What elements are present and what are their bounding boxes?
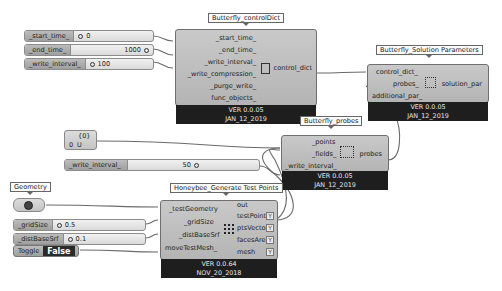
- slider-grip-icon[interactable]: [68, 237, 73, 242]
- slider-value: 1000: [124, 46, 141, 54]
- date-label: JAN_12_2019: [176, 115, 316, 124]
- output-port[interactable]: probes: [360, 150, 382, 158]
- input-port[interactable]: _purge_write_: [210, 82, 256, 90]
- graft-icon: Y: [266, 236, 274, 244]
- input-port[interactable]: control_dict_: [376, 68, 418, 76]
- component-footer: VER 0.0.05 JAN_12_2019: [282, 171, 388, 190]
- input-port[interactable]: _write_interval_: [204, 58, 256, 66]
- output-port[interactable]: solution_par: [442, 80, 482, 88]
- slider-value: 0.1: [76, 235, 87, 243]
- component-footer: VER 0.0.64 NOV_20_2018: [161, 259, 277, 278]
- component-footer: VER 0.0.05 JAN_12_2019: [176, 105, 316, 124]
- input-port[interactable]: _points: [312, 138, 336, 146]
- date-label: NOV_20_2018: [161, 269, 277, 278]
- data-panel[interactable]: {0} 0 U: [64, 130, 97, 150]
- slider-write-interval-probes[interactable]: _write_interval_ 50: [64, 159, 260, 171]
- component-title-tag: Honeybee_Generate Test Points: [170, 183, 283, 193]
- input-port[interactable]: moveTestMesh_: [165, 244, 217, 252]
- input-port[interactable]: additional_par_: [372, 92, 422, 100]
- slider-value: 0.5: [65, 221, 76, 229]
- panel-row-value: U: [77, 141, 82, 149]
- component-title-tag: Butterfly_probes: [300, 116, 362, 126]
- slider-label: _end_time_: [25, 45, 71, 55]
- slider-grid-size[interactable]: _gridSize 0.5: [13, 219, 146, 231]
- output-port[interactable]: mesh: [237, 248, 255, 256]
- panel-header: {0}: [78, 132, 90, 140]
- component-icon: [340, 146, 354, 158]
- input-port[interactable]: func_objects_: [211, 94, 256, 102]
- boolean-toggle[interactable]: Toggle False: [13, 245, 79, 257]
- version-label: VER 0.0.64: [161, 260, 277, 269]
- slider-end-time[interactable]: _end_time_ 1000: [24, 44, 154, 56]
- output-port[interactable]: control_dict: [274, 64, 312, 72]
- slider-write-interval[interactable]: _write_interval_ 100: [24, 58, 154, 70]
- date-label: JAN_12_2019: [282, 181, 388, 190]
- input-port[interactable]: _end_time_: [219, 46, 256, 54]
- panel-row-index: 0: [69, 141, 73, 149]
- input-port[interactable]: probes_: [393, 80, 419, 88]
- component-footer: VER 0.0.05 JAN_12_2019: [368, 102, 488, 121]
- output-port[interactable]: facesArea: [237, 236, 270, 244]
- slider-grip-icon[interactable]: [57, 223, 62, 228]
- slider-label: _gridSize: [14, 220, 53, 230]
- input-port[interactable]: _fields_: [312, 150, 336, 158]
- slider-value: 50: [183, 161, 191, 169]
- output-port[interactable]: testPoints: [237, 212, 269, 220]
- input-port[interactable]: _start_time_: [216, 34, 256, 42]
- slider-dist-base-srf[interactable]: _distBaseSrf 0.1: [13, 233, 146, 245]
- toggle-label: Toggle: [14, 246, 43, 256]
- slider-label: _write_interval_: [65, 160, 128, 170]
- component-icon: [425, 77, 436, 88]
- slider-grip-icon[interactable]: [194, 163, 199, 168]
- input-port[interactable]: _testGeometry: [169, 205, 218, 213]
- component-controldict[interactable]: _start_time_ _end_time_ _write_interval_…: [175, 29, 317, 106]
- component-icon: [261, 63, 270, 74]
- geometry-param[interactable]: [13, 198, 45, 212]
- slider-label: _start_time_: [25, 31, 74, 41]
- component-solution-parameters[interactable]: control_dict_ probes_ additional_par_ so…: [367, 64, 489, 103]
- slider-grip-icon[interactable]: [90, 62, 95, 67]
- geometry-icon: [24, 201, 33, 210]
- component-icon: [223, 223, 235, 235]
- graft-icon: Y: [266, 224, 274, 232]
- geometry-title-tag: Geometry: [10, 182, 51, 192]
- input-port[interactable]: _gridSize: [184, 218, 214, 226]
- date-label: JAN_12_2019: [368, 112, 488, 121]
- output-port[interactable]: out: [237, 201, 248, 209]
- version-label: VER 0.0.05: [368, 103, 488, 112]
- graft-icon: Y: [266, 248, 274, 256]
- input-port[interactable]: _write_interval_: [285, 162, 337, 170]
- version-label: VER 0.0.05: [282, 172, 388, 181]
- slider-label: _write_interval_: [25, 59, 86, 69]
- slider-value: 100: [98, 60, 111, 68]
- component-title-tag: Butterfly_controlDict: [208, 13, 284, 23]
- input-port[interactable]: _distBaseSrf: [179, 231, 220, 239]
- slider-value: 0: [86, 32, 90, 40]
- slider-grip-icon[interactable]: [144, 48, 149, 53]
- slider-start-time[interactable]: _start_time_ 0: [24, 30, 154, 42]
- component-probes[interactable]: _points _fields_ _write_interval_ probes…: [281, 135, 389, 172]
- input-port[interactable]: _write_compression_: [188, 70, 256, 78]
- version-label: VER 0.0.05: [176, 106, 316, 115]
- graft-icon: Y: [266, 212, 274, 220]
- toggle-value[interactable]: False: [43, 246, 74, 256]
- slider-label: _distBaseSrf: [14, 234, 64, 244]
- slider-grip-icon[interactable]: [78, 34, 83, 39]
- grasshopper-canvas[interactable]: _start_time_ 0 _end_time_ 1000 _write_in…: [0, 0, 502, 291]
- component-title-tag: Butterfly_Solution Parameters: [376, 45, 483, 55]
- component-generate-test-points[interactable]: _testGeometry _gridSize _distBaseSrf mov…: [160, 200, 278, 260]
